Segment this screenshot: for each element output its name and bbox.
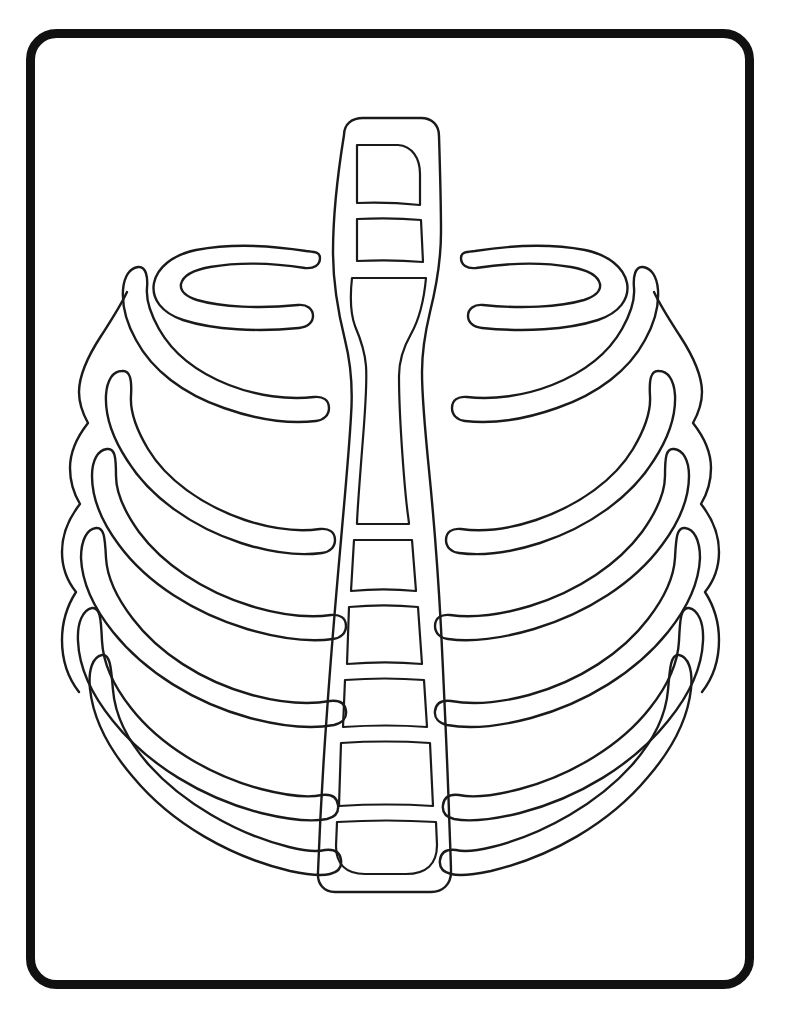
coloring-page: [0, 0, 791, 1021]
ribcage-illustration: [0, 0, 791, 1021]
page-background: [0, 0, 791, 1021]
